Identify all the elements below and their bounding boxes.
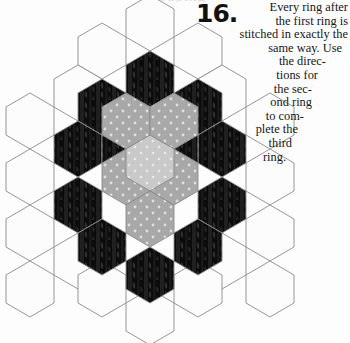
instruction-line-7: the sec- [196, 83, 312, 97]
instruction-text-block: 16. Every ring after the first ring is s… [196, 1, 348, 164]
instruction-line-12: ring. [196, 151, 286, 165]
step-number: 16. [196, 2, 237, 25]
scanned-page: grouping [0, 0, 350, 343]
instruction-line-9: to com- [196, 110, 304, 124]
instruction-line-10: plete the [196, 123, 298, 137]
instruction-line-8: ond ring [196, 96, 312, 110]
instruction-line-3: stitched in exactly the [196, 28, 348, 42]
instruction-line-6: tions for [196, 69, 318, 83]
instruction-line-5: the direc- [196, 55, 326, 69]
instruction-line-11: third [196, 137, 292, 151]
instruction-line-4: same way. Use [196, 42, 342, 56]
